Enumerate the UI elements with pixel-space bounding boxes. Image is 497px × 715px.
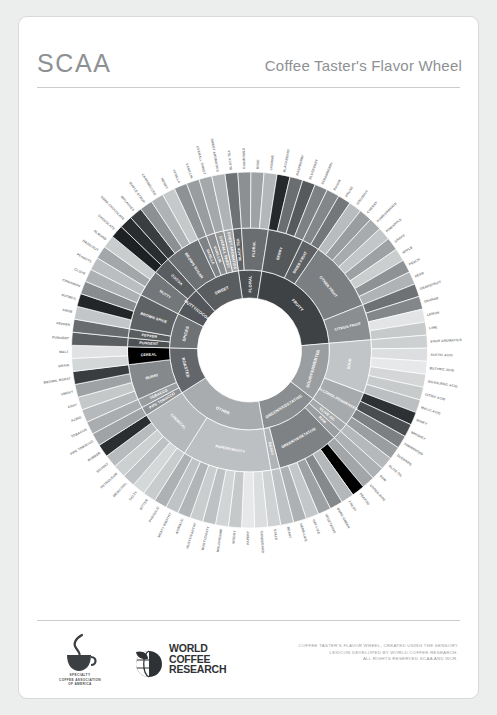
wcr-line-world: WORLD — [169, 643, 226, 654]
flavor-leaf-label: WINEY — [416, 418, 429, 426]
flavor-leaf-label: DARK GREEN — [336, 507, 351, 530]
credit-line-3: ALL RIGHTS RESERVED SCAA AND WCR. — [228, 656, 458, 663]
flavor-leaf-label: FRESH — [347, 500, 357, 512]
flavor-leaf-label: COCONUT — [355, 189, 369, 205]
wcr-logo-text: WORLD COFFEE RESEARCH — [169, 643, 226, 675]
flavor-leaf-label: UNDER-RIPE — [369, 483, 387, 502]
flavor-leaf-label: LIME — [429, 325, 438, 330]
flavor-leaf-label: ISOVALERIC ACID — [427, 379, 458, 388]
flavor-leaf-label: PEAPOD — [358, 492, 370, 506]
poster-header: SCAA Coffee Taster's Flavor Wheel — [19, 17, 479, 69]
scaa-cup-icon — [61, 633, 99, 673]
flavor-leaf-label: BEANY — [286, 526, 293, 539]
flavor-leaf-label: STRAWBERRY — [321, 161, 335, 186]
flavor-leaf-label: BITTER — [139, 498, 150, 511]
flavor-leaf-label: WOODY — [232, 530, 237, 544]
flavor-leaf-label: PUNGENT — [52, 335, 69, 340]
credit-text: COFFEE TASTER'S FLAVOR WHEEL, CREATED US… — [228, 643, 458, 663]
flavor-wheel-svg: BLACK TEABLACK TEACHAMOMILEROSEJASMINEFL… — [19, 95, 479, 605]
flavor-leaf-label: FERMENTED — [403, 442, 424, 457]
flavor-leaf-label: RUBBER — [87, 451, 102, 463]
flavor-leaf-label: TOBACCO — [70, 427, 88, 438]
flavor-leaf-label: PIPE TOBACCO — [69, 439, 94, 456]
flavor-leaf-label: BLUEBERRY — [308, 158, 319, 180]
flavor-leaf-label: HAY-LIKE — [312, 519, 322, 536]
flavor-leaf-label: NUTMEG — [61, 293, 77, 301]
flavor-category-label: FLORAL — [247, 275, 252, 293]
flavor-leaf-segment[interactable] — [72, 345, 128, 358]
flavor-leaf-label: PEANUTS — [76, 252, 93, 264]
credit-line-2: LEXICON DEVELOPED BY WORLD COFFEE RESEAR… — [228, 650, 458, 657]
flavor-leaf-label: GRAPEFRUIT — [419, 280, 441, 291]
flavor-leaf-label: MEDICINAL — [112, 481, 128, 498]
flavor-leaf-label: VANILLIN — [185, 163, 194, 180]
flavor-leaf-label: LEMON — [427, 310, 440, 316]
flavor-leaf-label: ORANGE — [423, 296, 439, 304]
flavor-leaf-label: PINEAPPLE — [385, 217, 403, 233]
poster-card: SCAA Coffee Taster's Flavor Wheel BLACK … — [18, 16, 479, 699]
flavor-leaf-label: HERB-LIKE — [299, 523, 308, 543]
flavor-leaf-label: JASMINE — [269, 154, 275, 170]
flavor-leaf-label: PEAR — [414, 271, 425, 279]
flavor-leaf-label: ASHY — [67, 402, 78, 409]
flavor-leaf-label: BROWN, ROAST — [43, 377, 71, 385]
flavor-leaf-label: PAPERY — [246, 530, 250, 545]
flavor-leaf-label: ACETIC ACID — [430, 353, 453, 358]
wheel-title: Coffee Taster's Flavor Wheel — [265, 57, 462, 74]
flavor-leaf-label: GRAIN — [58, 363, 70, 368]
flavor-leaf-label: RAW — [379, 474, 388, 483]
flavor-leaf-label: MAPLE SYRUP — [128, 181, 146, 204]
flavor-leaf-label: HAZELNUT — [82, 239, 100, 253]
flavor-leaf-label: MALIC ACID — [421, 405, 442, 415]
flavor-leaf-label: CITRIC ACID — [424, 393, 446, 402]
flavor-leaf-label: OVERRIPE — [396, 453, 413, 467]
flavor-leaf-label: RASPBERRY — [295, 153, 305, 175]
flavor-leaf-label: VANILLA — [172, 169, 182, 185]
flavor-leaf-label: ANISE — [62, 308, 74, 314]
flavor-leaf-label: WHISKEY — [410, 430, 427, 441]
flavor-wheel: BLACK TEABLACK TEACHAMOMILEROSEJASMINEFL… — [19, 95, 479, 605]
page-title: SCAA — [37, 49, 111, 78]
flavor-leaf-label: CHERRY — [366, 200, 379, 214]
flavor-leaf-label: PHENOLIC — [148, 505, 161, 523]
flavor-leaf-label: ANIMALIC — [175, 517, 185, 535]
flavor-leaf-label: CINNAMON — [62, 278, 82, 289]
flavor-leaf-label: OVERALL SWEET — [195, 145, 206, 175]
flavor-leaf-label: OLIVE OIL — [388, 464, 404, 478]
footer-divider — [37, 620, 460, 621]
header-divider — [37, 87, 460, 88]
flavor-leaf-label: ALMOND — [93, 229, 108, 242]
flavor-leaf-label: CHAMOMILE — [242, 147, 247, 169]
flavor-leaf-label: POMEGRANATE — [376, 201, 398, 223]
flavor-leaf-label: SMOKY — [61, 390, 75, 397]
flavor-leaf-label: SALTY — [128, 490, 138, 502]
flavor-leaf-label: VEGETATIVE — [324, 513, 337, 535]
flavor-leaf-label: MEATY BROTHY — [157, 511, 173, 538]
wcr-line-research: RESEARCH — [169, 664, 226, 675]
flavor-leaf-label: SWEET AROMATICS — [210, 138, 220, 173]
flavor-leaf-label: BUTYRIC ACID — [429, 366, 454, 373]
flavor-leaf-label: MOLDY/DAMP — [216, 528, 224, 553]
flavor-leaf-label: ROSE — [256, 159, 260, 170]
flavor-leaf-label: BLACK TEA — [227, 149, 233, 170]
flavor-leaf-label: SKUNKY — [96, 461, 110, 474]
flavor-leaf-label: MUSTY/EARTHY — [185, 521, 197, 549]
flavor-leaf-label: MUSTY/DUSTY — [201, 525, 211, 551]
flavor-leaf-label: MALT — [59, 350, 68, 354]
wcr-globe-icon — [129, 643, 165, 679]
flavor-leaf-label: CARAMELIZED — [141, 173, 158, 197]
flavor-leaf-label: CLOVE — [74, 267, 87, 276]
flavor-leaf-label: HONEY — [160, 177, 169, 190]
flavor-leaf-label: PEACH — [408, 257, 421, 266]
flavor-leaf-label: PRUNE — [344, 185, 354, 198]
flavor-leaf-label: PETROLEUM — [100, 472, 119, 490]
flavor-leaf-label: APPLE — [401, 245, 413, 255]
flavor-group-label: FLORAL — [252, 241, 257, 257]
flavor-group-label: CEREAL — [141, 352, 158, 357]
flavor-leaf-label: RAISIN — [333, 178, 342, 191]
flavor-leaf-label: MOLASSES — [120, 195, 136, 213]
flavor-leaf-label: PEPPER — [56, 321, 71, 327]
flavor-leaf-label: CHOCOLATE — [97, 214, 116, 232]
scaa-logo: SPECIALTYCOFFEE ASSOCIATIONOF AMERICA — [49, 633, 111, 687]
credit-line-1: COFFEE TASTER'S FLAVOR WHEEL, CREATED US… — [228, 643, 458, 650]
